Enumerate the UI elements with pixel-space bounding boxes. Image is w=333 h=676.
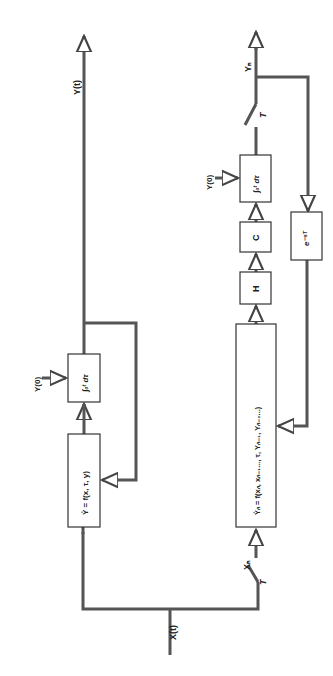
label-xn: Xₙ [242, 560, 252, 570]
label-right-y0: Y(0) [205, 175, 214, 190]
label-yn: Yₙ [243, 62, 253, 72]
label-right-f: Y̊ₙ = f(xₙ, xₙ₋₁..., τ, Yₙ₋₁, Yₙ₋₂...) [253, 406, 262, 515]
input-bus [83, 532, 258, 609]
label-xt: X(t) [168, 625, 178, 640]
label-input-t: T [258, 578, 268, 585]
label-delay: e⁻ˢᵀ [302, 231, 311, 246]
label-left-f: Y̊ = f(x, τ, y) [81, 471, 90, 515]
label-left-y0: Y(0) [33, 377, 42, 392]
output-sampler-switch [245, 104, 256, 125]
right-feedback-bottom [288, 260, 307, 426]
label-right-int: ∫₀ᵗ dτ [252, 175, 261, 194]
label-yt: Y(t) [72, 80, 82, 95]
label-output-t: T [258, 111, 268, 118]
block-diagram: X(t) Y(t) Y̊ = f(x, τ, y) ∫₀ᵗ dτ Y(0) Xₙ… [0, 0, 333, 676]
label-h: H [251, 286, 261, 293]
label-c: C [251, 234, 261, 241]
label-left-int: ∫₀ᵗ dτ [81, 374, 90, 393]
